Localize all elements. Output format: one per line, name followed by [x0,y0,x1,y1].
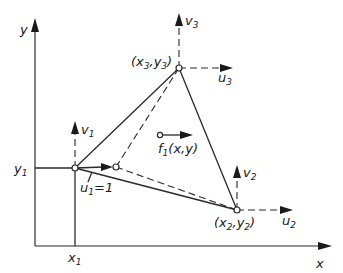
y1-tick-label: y1 [13,161,27,178]
body-force: f1(x,y) [157,131,198,158]
v1-arrow-icon [71,121,79,134]
v2-arrow-icon [233,165,241,178]
v3-arrow-icon [175,13,183,26]
node-2-dofs: v2 u2 (x2,y2) [214,165,296,232]
force-point-icon [157,132,162,137]
reference-lines: y1 x1 [13,161,81,267]
node-2-coord-label: (x2,y2) [214,215,255,232]
fem-triangle-diagram: y x y1 x1 v1 u1=1 v3 u3 (x3,y3) [0,0,343,273]
deformed-edge-1-2 [116,167,237,210]
x1-tick-label: x1 [67,250,81,267]
v3-label: v3 [185,13,199,30]
edge-3-2 [179,68,237,210]
u1-arrow-icon [101,163,113,171]
y-axis-arrow-icon [31,18,39,32]
u1-label: u1=1 [80,180,113,197]
node-3-coord-label: (x3,y3) [131,54,172,71]
v1-label: v1 [81,122,94,139]
node-1-displaced [113,164,119,170]
u1-arrow-line [75,167,104,168]
x-axis-label: x [315,256,324,271]
v2-label: v2 [243,165,257,182]
force-label: f1(x,y) [158,141,198,158]
node-1 [72,165,78,171]
y-axis-label: y [19,22,28,37]
x-axis-arrow-icon [318,242,332,250]
u2-label: u2 [282,213,296,230]
u3-label: u3 [218,70,232,87]
node-3 [176,65,182,71]
u1-leader-line [88,172,92,182]
deformed-triangle [116,68,237,210]
node-2 [234,207,240,213]
node-1-dofs: v1 u1=1 [71,121,113,197]
force-arrow-icon [180,131,193,139]
